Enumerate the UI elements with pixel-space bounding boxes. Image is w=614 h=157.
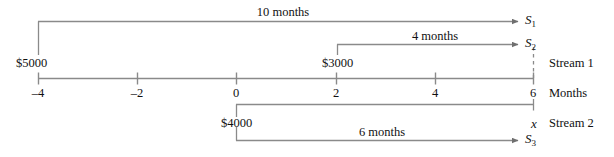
- cash-flow-label-4000: $4000: [221, 117, 252, 130]
- row-caption-stream-2: Stream 2: [549, 117, 594, 130]
- axis-tick-label-minus-2: –2: [131, 87, 144, 100]
- result-symbol-s3-sub: 3: [532, 138, 537, 148]
- span-label-4-months: 4 months: [412, 30, 458, 43]
- cash-flow-label-5000: $5000: [16, 57, 47, 70]
- result-symbol-s3: S3: [525, 132, 536, 145]
- result-symbol-s2-base: S: [525, 35, 532, 50]
- cash-flow-timeline-figure: 10 months 4 months 6 months S1 S2 S3 $50…: [0, 0, 614, 157]
- span-4-months-path: [337, 45, 518, 56]
- result-symbol-s1-base: S: [525, 12, 532, 27]
- result-symbol-s2-sub: 2: [532, 42, 537, 52]
- row-caption-months: Months: [549, 87, 587, 100]
- axis-tick-label-4: 4: [432, 87, 438, 100]
- row-caption-stream-1: Stream 1: [549, 57, 594, 70]
- span-label-6-months: 6 months: [359, 126, 405, 139]
- result-symbol-s3-base: S: [525, 131, 532, 146]
- result-symbol-s1-sub: 1: [532, 19, 537, 29]
- axis-tick-label-6: 6: [530, 87, 536, 100]
- axis-tick-label-minus-4: –4: [32, 87, 45, 100]
- span-label-10-months: 10 months: [257, 6, 309, 19]
- timeline-vector-layer: [0, 0, 614, 157]
- cash-flow-label-3000: $3000: [322, 57, 353, 70]
- axis-tick-label-0: 0: [233, 87, 239, 100]
- axis-tick-label-2: 2: [333, 87, 339, 100]
- unknown-value-x: x: [531, 117, 537, 130]
- result-symbol-s1: S1: [525, 13, 536, 26]
- result-symbol-s2: S2: [525, 36, 536, 49]
- stream2-x-bracket-path: [236, 99, 534, 117]
- time-axis: [38, 73, 534, 85]
